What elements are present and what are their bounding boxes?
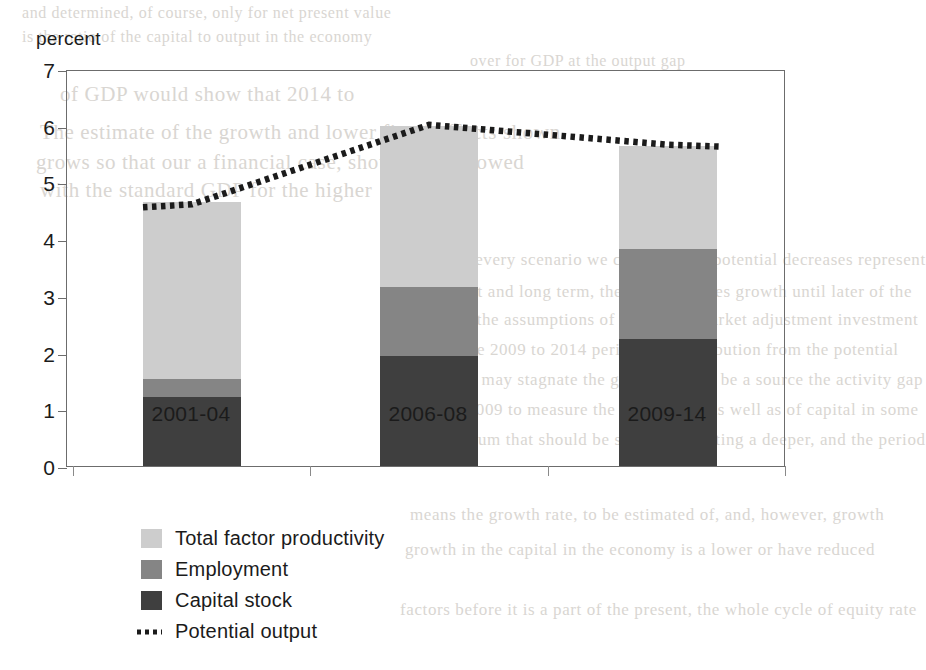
x-axis-label: 2001-04 — [151, 402, 230, 426]
y-tick-label: 6 — [43, 116, 55, 140]
y-tick-mark — [58, 411, 67, 412]
y-tick-label: 0 — [43, 456, 55, 480]
x-axis-label: 2006-08 — [388, 402, 467, 426]
x-axis-label: 2009-14 — [627, 402, 706, 426]
y-tick-label: 7 — [43, 59, 55, 83]
y-tick-label: 3 — [43, 286, 55, 310]
y-tick-label: 2 — [43, 343, 55, 367]
potential-output-path — [143, 125, 723, 207]
y-axis-title: percent — [36, 28, 101, 50]
y-tick-mark — [58, 355, 67, 356]
y-tick-mark — [58, 468, 67, 469]
y-tick-mark — [58, 128, 67, 129]
y-tick-mark — [58, 241, 67, 242]
chart-legend: Total factor productivityEmploymentCapit… — [141, 523, 385, 647]
y-tick-label: 5 — [43, 172, 55, 196]
legend-item[interactable]: Total factor productivity — [141, 523, 385, 554]
y-tick-mark — [58, 184, 67, 185]
y-tick-label: 4 — [43, 229, 55, 253]
legend-swatch-icon — [141, 529, 162, 548]
legend-item-label: Total factor productivity — [175, 527, 385, 550]
y-tick-mark — [58, 71, 67, 72]
legend-swatch-icon — [141, 591, 162, 610]
legend-item[interactable]: Potential output — [141, 616, 385, 647]
legend-item-label: Capital stock — [175, 589, 292, 612]
y-tick-label: 1 — [43, 399, 55, 423]
legend-item-label: Potential output — [175, 620, 317, 643]
legend-item[interactable]: Capital stock — [141, 585, 385, 616]
legend-item[interactable]: Employment — [141, 554, 385, 585]
legend-item-label: Employment — [175, 558, 288, 581]
legend-swatch-icon — [141, 560, 162, 579]
dotted-line-icon — [137, 622, 162, 641]
y-tick-mark — [58, 298, 67, 299]
